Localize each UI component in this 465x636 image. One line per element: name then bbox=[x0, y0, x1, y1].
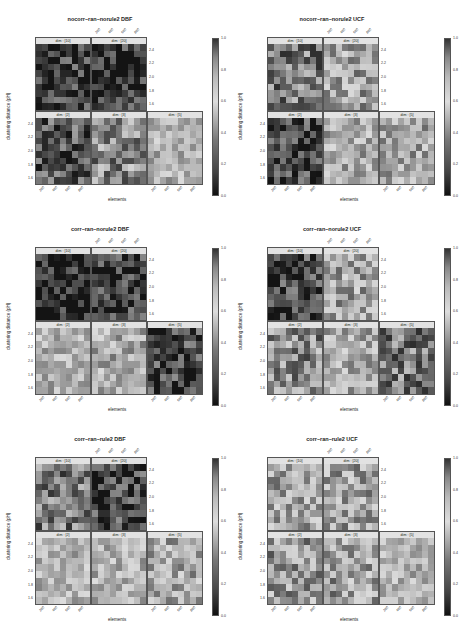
y-tick-label: 1.8 bbox=[149, 89, 154, 93]
y-tick-label: 1.8 bbox=[381, 89, 386, 93]
x-tick-label: 400 bbox=[395, 396, 402, 403]
x-tick-label: 200 bbox=[382, 606, 389, 613]
colorbar-tick-label: 0.2 bbox=[453, 162, 458, 166]
colorbar-tick-label: 0.6 bbox=[221, 519, 226, 523]
y-tick-label: 2.0 bbox=[28, 359, 33, 363]
y-tick-label: 1.8 bbox=[149, 299, 154, 303]
y-tick-label: 1.6 bbox=[149, 312, 154, 316]
x-tick-label: 200 bbox=[94, 28, 101, 35]
y-tick-label: 2.0 bbox=[381, 495, 386, 499]
heatmap-cells bbox=[148, 538, 202, 604]
colorbar-tick-label: 0.2 bbox=[453, 372, 458, 376]
x-tick-label: 800 bbox=[77, 396, 84, 403]
x-tick-label: 400 bbox=[339, 28, 346, 35]
colorbar bbox=[444, 458, 451, 616]
colorbar bbox=[444, 38, 451, 196]
colorbar-tick-label: 0.8 bbox=[453, 68, 458, 72]
y-tick-label: 2.4 bbox=[260, 122, 265, 126]
y-tick-label: 1.8 bbox=[381, 509, 386, 513]
heatmap-panel: dim : [2] bbox=[35, 531, 91, 605]
x-tick-label: 200 bbox=[38, 186, 45, 193]
chart-title: corr–ran–norule2 UCF bbox=[232, 226, 432, 232]
x-tick-label: 600 bbox=[296, 396, 303, 403]
x-tick-label: 800 bbox=[365, 448, 372, 455]
x-tick-label: 200 bbox=[94, 448, 101, 455]
heatmap-figure: nocorr–ran–norule2 UCFdim : [10]dim : [2… bbox=[232, 0, 464, 210]
x-tick-label: 400 bbox=[107, 28, 114, 35]
y-tick-label: 2.4 bbox=[149, 468, 154, 472]
heatmap-cells bbox=[92, 254, 146, 320]
colorbar-tick-label: 1.0 bbox=[453, 456, 458, 460]
heatmap-panel: dim : [3] bbox=[323, 111, 379, 185]
y-tick-label: 2.2 bbox=[149, 481, 154, 485]
x-tick-label: 600 bbox=[64, 606, 71, 613]
x-tick-label: 200 bbox=[38, 396, 45, 403]
heatmap-cells bbox=[268, 464, 322, 530]
y-tick-label: 1.6 bbox=[260, 596, 265, 600]
x-tick-label: 400 bbox=[395, 606, 402, 613]
x-axis-label: elements bbox=[340, 407, 358, 412]
x-tick-label: 400 bbox=[107, 238, 114, 245]
colorbar-tick-label: 0.4 bbox=[221, 131, 226, 135]
x-tick-label: 800 bbox=[189, 186, 196, 193]
y-tick-label: 2.4 bbox=[381, 468, 386, 472]
colorbar-tick-label: 0.8 bbox=[453, 488, 458, 492]
y-tick-label: 1.8 bbox=[149, 509, 154, 513]
colorbar-tick-label: 0.0 bbox=[453, 614, 458, 618]
x-tick-label: 200 bbox=[270, 186, 277, 193]
y-axis-label: clustering distance (pH) bbox=[6, 513, 11, 560]
y-tick-label: 2.2 bbox=[149, 271, 154, 275]
heatmap-panel: dim : [10] bbox=[267, 247, 323, 321]
x-tick-label: 800 bbox=[421, 186, 428, 193]
x-tick-label: 800 bbox=[133, 448, 140, 455]
y-tick-label: 2.4 bbox=[28, 122, 33, 126]
colorbar-tick-label: 0.0 bbox=[453, 404, 458, 408]
heatmap-panel: dim : [20] bbox=[323, 37, 379, 111]
y-tick-label: 2.4 bbox=[260, 542, 265, 546]
x-tick-label: 200 bbox=[270, 396, 277, 403]
y-tick-label: 1.6 bbox=[149, 522, 154, 526]
colorbar-tick-label: 0.6 bbox=[221, 99, 226, 103]
colorbar-tick-label: 0.8 bbox=[221, 68, 226, 72]
heatmap-panel: dim : [2] bbox=[267, 321, 323, 395]
heatmap-cells bbox=[268, 44, 322, 110]
y-tick-label: 2.0 bbox=[28, 569, 33, 573]
x-tick-label: 200 bbox=[326, 448, 333, 455]
x-tick-label: 600 bbox=[296, 186, 303, 193]
y-tick-label: 2.0 bbox=[381, 75, 386, 79]
colorbar-tick-label: 0.2 bbox=[221, 582, 226, 586]
heatmap-panel: dim : [20] bbox=[323, 247, 379, 321]
x-tick-label: 800 bbox=[421, 606, 428, 613]
heatmap-panel: dim : [3] bbox=[323, 321, 379, 395]
y-tick-label: 1.8 bbox=[381, 299, 386, 303]
y-tick-label: 1.8 bbox=[28, 583, 33, 587]
y-tick-label: 2.4 bbox=[28, 332, 33, 336]
y-tick-label: 1.6 bbox=[381, 522, 386, 526]
colorbar-tick-label: 0.6 bbox=[453, 99, 458, 103]
x-tick-label: 600 bbox=[120, 448, 127, 455]
y-tick-label: 2.0 bbox=[149, 75, 154, 79]
x-tick-label: 200 bbox=[150, 186, 157, 193]
y-tick-label: 2.0 bbox=[28, 149, 33, 153]
heatmap-cells bbox=[148, 118, 202, 184]
x-tick-label: 600 bbox=[296, 606, 303, 613]
colorbar-tick-label: 0.2 bbox=[221, 162, 226, 166]
x-tick-label: 400 bbox=[163, 186, 170, 193]
heatmap-cells bbox=[324, 464, 378, 530]
chart-title: nocorr–ran–norule2 UCF bbox=[232, 16, 432, 22]
heatmap-cells bbox=[380, 538, 434, 604]
chart-title: nocorr–ran–norule2 DBF bbox=[0, 16, 200, 22]
y-axis-label: clustering distance (pH) bbox=[238, 93, 243, 140]
y-tick-label: 2.2 bbox=[28, 345, 33, 349]
x-tick-label: 600 bbox=[352, 448, 359, 455]
x-tick-label: 800 bbox=[309, 396, 316, 403]
y-tick-label: 2.4 bbox=[28, 542, 33, 546]
heatmap-cells bbox=[36, 44, 90, 110]
heatmap-cells bbox=[268, 254, 322, 320]
colorbar bbox=[212, 248, 219, 406]
colorbar-tick-label: 1.0 bbox=[221, 456, 226, 460]
heatmap-cells bbox=[92, 328, 146, 394]
x-tick-label: 200 bbox=[382, 396, 389, 403]
heatmap-cells bbox=[36, 464, 90, 530]
colorbar-tick-label: 1.0 bbox=[453, 246, 458, 250]
